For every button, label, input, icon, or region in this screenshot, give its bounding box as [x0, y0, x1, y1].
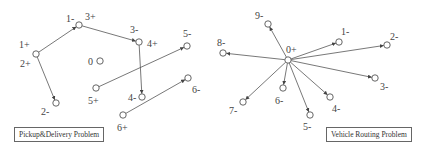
node-label: 1-	[341, 26, 349, 37]
node-label: 7-	[229, 105, 237, 116]
graph-node	[185, 75, 191, 81]
edge-arrow	[291, 43, 336, 59]
graph-node	[93, 85, 99, 91]
graph-node	[139, 94, 145, 100]
edge-arrow	[82, 26, 136, 41]
node-label: 5-	[183, 28, 191, 39]
node-label: 6-	[275, 95, 283, 106]
node-label: 8-	[217, 37, 225, 48]
edge-arrow	[284, 63, 288, 85]
node-label: 4-	[332, 103, 340, 114]
graph-node	[384, 42, 390, 48]
node-label: 6-	[192, 84, 200, 95]
node-label: 5+	[88, 95, 99, 106]
edge-arrow	[39, 27, 77, 52]
graph-node	[136, 39, 142, 45]
node-label: 6+	[117, 122, 128, 133]
node-label: 3-	[130, 24, 138, 35]
vehicle-routing-caption: Vehicle Routing Problem	[326, 127, 412, 142]
graph-node	[336, 39, 342, 45]
graph-node	[280, 85, 286, 91]
node-label: 1+	[19, 39, 30, 50]
edge-arrow	[291, 45, 384, 59]
graph-node	[53, 100, 59, 106]
graph-node	[97, 58, 103, 64]
graph-node	[307, 112, 313, 118]
edge-arrow	[139, 45, 142, 94]
node-label: 3+	[85, 11, 96, 22]
graph-node	[285, 57, 291, 63]
node-label: 4-	[128, 92, 136, 103]
pickup-delivery-caption: Pickup&Delivery Problem	[14, 127, 104, 142]
node-label: 2-	[41, 106, 49, 117]
node-label: 3-	[380, 81, 388, 92]
graph-node	[220, 50, 226, 56]
graph-node	[327, 94, 333, 100]
graph-node	[372, 75, 378, 81]
graph-node	[76, 22, 82, 28]
node-label: 1-	[66, 13, 74, 24]
graph-node	[265, 21, 271, 27]
edge-arrow	[270, 27, 287, 57]
edge-arrow	[289, 63, 309, 112]
node-label: 4+	[147, 38, 158, 49]
graph-node	[120, 112, 126, 118]
graph-node	[184, 43, 190, 49]
node-label: 9-	[255, 10, 263, 21]
node-label: 2+	[20, 58, 31, 69]
edge-arrow	[226, 53, 285, 59]
node-label: 2-	[390, 31, 398, 42]
node-label: 5-	[303, 121, 311, 132]
vehicle-routing-graph: 0+1-2-3-4-5-6-7-8-9-	[217, 10, 398, 132]
pickup-delivery-graph: 1+2+1-3+3-4+2-05+5-4-6+6-	[19, 11, 200, 133]
node-label: 0	[88, 56, 93, 67]
graph-node	[240, 99, 246, 105]
edge-arrow	[291, 61, 372, 78]
edge-arrow	[37, 57, 55, 100]
node-label: 0+	[286, 44, 297, 55]
graph-node	[33, 51, 39, 57]
